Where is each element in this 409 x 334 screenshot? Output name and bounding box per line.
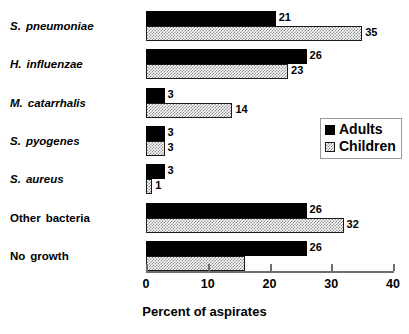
category-label: M.catarrhalis: [10, 97, 146, 109]
bar-value-label: 21: [279, 10, 291, 25]
x-axis-tick: [208, 264, 210, 271]
bar-value-label: 14: [235, 102, 247, 117]
bar-adults: [146, 203, 307, 218]
bar-value-label: 3: [168, 140, 174, 155]
category-label-abbr: S.: [10, 173, 21, 185]
category-label: H.influenzae: [10, 58, 146, 70]
category-axis-labels: S.pneumoniaeH.influenzaeM.catarrhalisS.p…: [12, 0, 146, 334]
bar-value-label: 35: [365, 25, 377, 40]
bar-adults: [146, 164, 165, 179]
bar-children: [146, 26, 362, 41]
legend-label-adults: Adults: [339, 122, 383, 137]
bar-adults: [146, 126, 165, 141]
x-axis-tick-label: 40: [378, 277, 408, 291]
x-axis-line: [146, 271, 394, 273]
bar-adults: [146, 88, 165, 103]
category-label: S.pyogenes: [10, 135, 146, 147]
x-axis-tick: [393, 264, 395, 271]
bar-adults: [146, 49, 307, 64]
category-label-abbr: S.: [10, 20, 21, 32]
plot-area: 213526233143331263226010203040: [146, 0, 409, 334]
bar-value-label: 26: [310, 240, 322, 255]
bar-adults: [146, 241, 307, 256]
category-label-abbr: No: [10, 250, 25, 262]
x-axis-tick-label: 20: [255, 277, 285, 291]
bar-children: [146, 179, 152, 194]
bar-children: [146, 256, 245, 271]
category-label: Otherbacteria: [10, 212, 146, 224]
bar-children: [146, 141, 165, 156]
bar-adults: [146, 11, 276, 26]
legend-item-adults: Adults: [325, 121, 396, 138]
category-label-name: catarrhalis: [28, 97, 86, 109]
x-axis-tick: [270, 264, 272, 271]
bar-value-label: 26: [310, 202, 322, 217]
bar-value-label: 3: [168, 163, 174, 178]
category-label-abbr: M.: [10, 97, 23, 109]
x-axis-tick: [146, 264, 148, 271]
category-label-name: aureus: [26, 173, 64, 185]
bar-value-label: 26: [310, 48, 322, 63]
bar-value-label: 3: [168, 87, 174, 102]
category-label: S.aureus: [10, 173, 146, 185]
legend-label-children: Children: [339, 139, 396, 154]
legend-swatch-adults: [325, 125, 335, 135]
category-label-abbr: Other: [10, 212, 41, 224]
category-label-name: influenzae: [27, 58, 83, 70]
bar-value-label: 32: [347, 217, 359, 232]
bar-value-label: 3: [168, 125, 174, 140]
bar-value-label: 1: [155, 178, 161, 193]
bar-children: [146, 218, 344, 233]
category-label-name: pyogenes: [26, 135, 80, 147]
category-label: S.pneumoniae: [10, 20, 146, 32]
legend-swatch-children: [325, 142, 335, 152]
x-axis-tick: [331, 264, 333, 271]
x-axis-tick-label: 10: [193, 277, 223, 291]
x-axis-tick-label: 30: [316, 277, 346, 291]
x-axis-title: Percent of aspirates: [0, 304, 409, 319]
bar-chart: S.pneumoniaeH.influenzaeM.catarrhalisS.p…: [0, 0, 409, 334]
legend: Adults Children: [320, 118, 402, 159]
category-label-name: pneumoniae: [26, 20, 94, 32]
category-label: Nogrowth: [10, 250, 146, 262]
bar-value-label: 23: [291, 63, 303, 78]
bar-children: [146, 64, 288, 79]
category-label-name: bacteria: [46, 212, 90, 224]
bar-children: [146, 103, 232, 118]
x-axis-tick-label: 0: [131, 277, 161, 291]
legend-item-children: Children: [325, 138, 396, 155]
category-label-abbr: S.: [10, 135, 21, 147]
category-label-name: growth: [30, 250, 68, 262]
category-label-abbr: H.: [10, 58, 22, 70]
